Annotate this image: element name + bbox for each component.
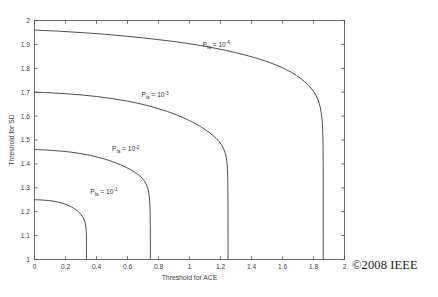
y-tick-label: 1.1	[21, 232, 30, 239]
y-tick-label: 1.4	[21, 160, 30, 167]
x-tick-label: 1.8	[309, 263, 318, 270]
x-tick-label: 1.6	[278, 263, 287, 270]
curve-label-0: Pfa = 10-1	[90, 187, 118, 197]
y-tick-label: 1.3	[21, 184, 30, 191]
copyright-notice: ©2008 IEEE	[352, 258, 418, 273]
y-tick-label: 1.6	[21, 113, 30, 120]
curve-annotation-0: Pfa = 10-1	[90, 187, 118, 197]
x-tick-label: 0.6	[123, 263, 132, 270]
figure-container: 00.20.40.60.811.21.41.61.8211.11.21.31.4…	[0, 0, 438, 297]
curve-label-1: Pfa = 10-2	[112, 145, 140, 155]
x-axis-title: Threshold for ACE	[162, 274, 218, 281]
curve-series-2	[35, 92, 229, 259]
curve-annotation-2: Pfa = 10-3	[141, 91, 169, 101]
x-tick-label: 0.8	[154, 263, 163, 270]
curve-series-1	[35, 150, 151, 260]
x-tick-label: 0	[33, 263, 37, 270]
x-tick-label: 0.4	[92, 263, 101, 270]
plot-frame	[35, 21, 345, 260]
x-tick-label: 1.2	[216, 263, 225, 270]
x-tick-label: 1	[188, 263, 192, 270]
y-tick-label: 1.5	[21, 136, 30, 143]
curve-annotation-1: Pfa = 10-2	[112, 145, 140, 155]
y-tick-label: 1.9	[21, 41, 30, 48]
y-tick-label: 1.2	[21, 208, 30, 215]
y-tick-label: 1.8	[21, 65, 30, 72]
chart-canvas: 00.20.40.60.811.21.41.61.8211.11.21.31.4…	[0, 0, 438, 297]
curve-series-0	[35, 200, 87, 260]
y-tick-label: 1.7	[21, 89, 30, 96]
curve-label-2: Pfa = 10-3	[141, 91, 169, 101]
y-tick-label: 1	[26, 256, 30, 263]
x-tick-label: 0.2	[61, 263, 70, 270]
x-tick-label: 2	[343, 263, 347, 270]
curve-series-3	[35, 30, 324, 259]
y-axis-title: Threshold for SD	[8, 114, 15, 165]
y-tick-label: 2	[26, 17, 30, 24]
x-tick-label: 1.4	[247, 263, 256, 270]
